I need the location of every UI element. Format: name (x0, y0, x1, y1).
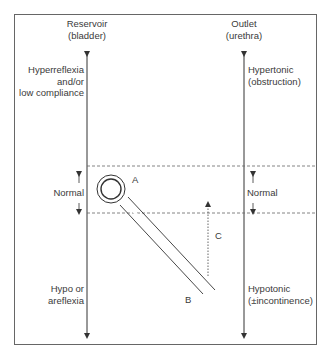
marker-b: B (185, 294, 191, 306)
outlet-title-line1: Outlet (219, 18, 269, 30)
right-normal-label: Normal (247, 187, 278, 199)
hypertonic-label: Hypertonic (obstruction) (248, 64, 301, 87)
outlet-title-line2: (urethra) (219, 30, 269, 42)
hypo-line1: Hypo or (20, 283, 84, 295)
left-normal-label: Normal (20, 187, 84, 199)
hyperreflexia-line1: Hyperreflexia (14, 64, 84, 76)
point-a-lollipop (97, 175, 215, 294)
hyperreflexia-label: Hyperreflexia and/or low compliance (14, 64, 84, 99)
hypertonic-line2: (obstruction) (248, 76, 301, 88)
hyperreflexia-line3: low compliance (14, 87, 84, 99)
hypo-line2: areflexia (20, 295, 84, 307)
outlet-title: Outlet (urethra) (219, 18, 269, 41)
marker-a: A (132, 174, 138, 186)
hypo-areflexia-label: Hypo or areflexia (20, 283, 84, 306)
reservoir-title-line2: (bladder) (62, 30, 112, 42)
reservoir-title-line1: Reservoir (62, 18, 112, 30)
hypotonic-line2: (±incontinence) (248, 295, 313, 307)
hypotonic-line1: Hypotonic (248, 283, 313, 295)
reservoir-title: Reservoir (bladder) (62, 18, 112, 41)
hypotonic-label: Hypotonic (±incontinence) (248, 283, 313, 306)
hyperreflexia-line2: and/or (14, 76, 84, 88)
hypertonic-line1: Hypertonic (248, 64, 301, 76)
marker-c: C (215, 230, 222, 242)
